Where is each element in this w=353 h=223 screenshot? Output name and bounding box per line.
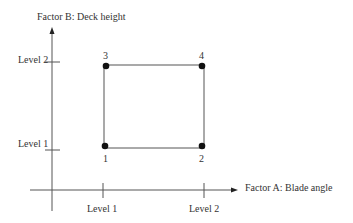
design-square [104,65,204,148]
design-point-3 [103,63,110,70]
design-point-1 [102,143,109,150]
y-axis-label: Factor B: Deck height [37,11,126,22]
point-label-2: 2 [199,153,204,164]
x-tick-label-2: Level 2 [189,203,219,214]
point-label-3: 3 [103,50,108,61]
y-tick-label-1: Level 1 [18,138,48,149]
point-label-1: 1 [103,153,108,164]
design-point-4 [199,63,206,70]
design-point-2 [199,143,206,150]
x-axis-arrow-icon [231,188,238,193]
x-tick-label-1: Level 1 [87,203,117,214]
point-label-4: 4 [199,50,204,61]
factorial-diagram: Factor B: Deck height Factor A: Blade an… [0,0,353,223]
y-tick-label-2: Level 2 [18,54,48,65]
x-axis-label: Factor A: Blade angle [245,182,333,193]
y-axis-arrow-icon [50,27,55,34]
